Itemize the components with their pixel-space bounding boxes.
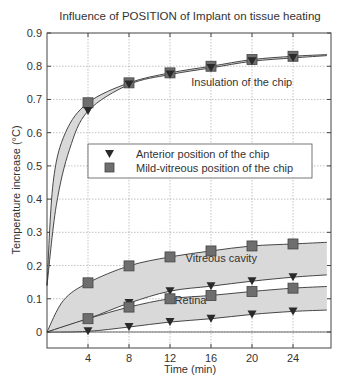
square-marker: [288, 283, 298, 293]
annotation-label: Vitreous cavity: [186, 252, 258, 264]
y-tick-label: 0.4: [27, 193, 42, 205]
x-tick-label: 8: [126, 352, 132, 364]
chart-title: Influence of POSITION of Implant on tiss…: [59, 10, 320, 22]
y-tick-label: 0.1: [27, 293, 42, 305]
square-marker: [83, 314, 93, 324]
x-tick-label: 20: [246, 352, 258, 364]
annotation-label: Insulation of the chip: [191, 76, 292, 88]
legend-label: Mild-vitreous position of the chip: [136, 162, 293, 174]
y-tick-label: 0.7: [27, 93, 42, 105]
legend: Anterior position of the chipMild-vitreo…: [88, 144, 312, 178]
y-tick-label: 0.9: [27, 27, 42, 39]
square-marker: [124, 302, 134, 312]
square-marker: [247, 286, 257, 296]
y-tick-label: 0: [36, 326, 42, 338]
x-axis-label: Time (min): [164, 363, 216, 375]
square-marker: [83, 278, 93, 288]
legend-square-icon: [105, 163, 114, 172]
square-marker: [247, 241, 257, 251]
square-marker: [83, 98, 93, 108]
y-tick-label: 0.3: [27, 226, 42, 238]
y-axis-label: Temperature increase (°C): [10, 125, 22, 254]
y-tick-label: 0.6: [27, 127, 42, 139]
y-tick-label: 0.2: [27, 260, 42, 272]
y-tick-label: 0.5: [27, 160, 42, 172]
y-tick-label: 0.8: [27, 60, 42, 72]
legend-label: Anterior position of the chip: [136, 148, 269, 160]
square-marker: [206, 290, 216, 300]
x-tick-label: 4: [85, 352, 91, 364]
square-marker: [165, 294, 175, 304]
square-marker: [288, 239, 298, 249]
annotation-label: Retina: [175, 294, 208, 306]
square-marker: [165, 252, 175, 262]
square-marker: [124, 261, 134, 271]
line-chart: Influence of POSITION of Implant on tiss…: [0, 0, 348, 388]
plot-area: 00.10.20.30.40.50.60.70.80.94812162024In…: [27, 27, 331, 364]
x-tick-label: 24: [287, 352, 299, 364]
